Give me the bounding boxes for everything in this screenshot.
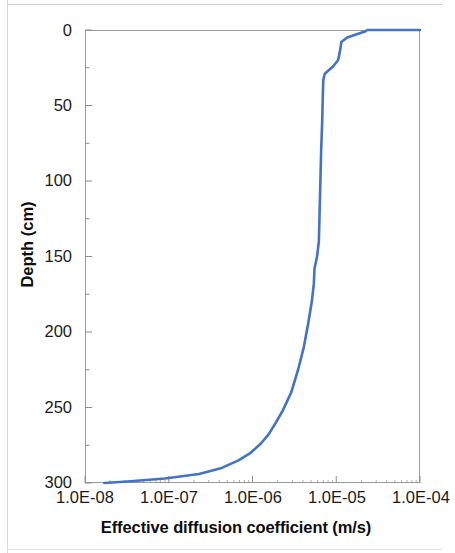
- y-tick-label: 100: [20, 172, 72, 189]
- y-axis-title: Depth (cm): [18, 190, 37, 300]
- y-tick-label: 0: [20, 22, 72, 39]
- data-series-group: [104, 30, 420, 483]
- x-axis-title: Effective diffusion coefficient (m/s): [46, 518, 426, 537]
- data-line: [104, 30, 420, 483]
- x-tick-label: 1.0E-05: [291, 489, 383, 506]
- x-tick-label: 1.0E-07: [123, 489, 215, 506]
- y-tick-label: 250: [20, 399, 72, 416]
- x-tick-label: 1.0E-04: [375, 489, 455, 506]
- axis-ticks: [85, 30, 420, 483]
- x-tick-label: 1.0E-08: [39, 489, 131, 506]
- y-tick-label: 50: [20, 97, 72, 114]
- y-tick-label: 200: [20, 323, 72, 340]
- x-tick-label: 1.0E-06: [207, 489, 299, 506]
